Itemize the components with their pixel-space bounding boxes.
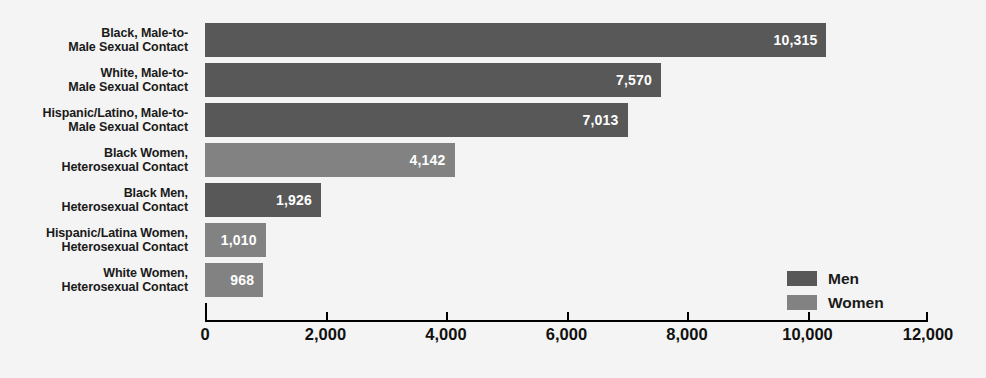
bar-value-label: 7,013 xyxy=(582,112,627,128)
category-label-line1: Black Men, xyxy=(124,186,188,201)
category-axis-labels: Black, Male-to-Male Sexual ContactWhite,… xyxy=(0,23,196,303)
bar: 4,142 xyxy=(205,143,455,177)
bar: 7,570 xyxy=(205,63,661,97)
bar: 7,013 xyxy=(205,103,628,137)
x-axis-tick-label: 12,000 xyxy=(903,325,953,344)
category-label-line2: Male Sexual Contact xyxy=(68,120,188,135)
bar-value-label: 968 xyxy=(230,272,263,288)
legend-label: Women xyxy=(828,294,884,312)
x-axis-tick xyxy=(687,312,689,322)
legend-label: Men xyxy=(828,270,859,288)
bar-row: 10,315 xyxy=(205,23,928,57)
bar-row: 4,142 xyxy=(205,143,928,177)
x-axis-tick xyxy=(446,312,448,322)
bar: 1,926 xyxy=(205,183,321,217)
bar: 968 xyxy=(205,263,263,297)
category-label: Black Women,Heterosexual Contact xyxy=(0,143,196,177)
x-axis-tick xyxy=(326,312,328,322)
legend-item[interactable]: Women xyxy=(787,292,884,313)
x-axis-tick-label: 4,000 xyxy=(425,325,466,344)
bar-row: 7,570 xyxy=(205,63,928,97)
bar-value-label: 7,570 xyxy=(616,72,661,88)
bar-series-container: 10,3157,5707,0134,1421,9261,010968 xyxy=(205,23,928,303)
x-axis-tick xyxy=(567,312,569,322)
category-label-line2: Heterosexual Contact xyxy=(61,240,188,255)
plot-area: 10,3157,5707,0134,1421,9261,010968 xyxy=(205,10,928,310)
bar-value-label: 10,315 xyxy=(773,32,826,48)
legend-item[interactable]: Men xyxy=(787,268,884,289)
category-label-line1: Black Women, xyxy=(104,146,188,161)
bar-value-label: 1,010 xyxy=(221,232,266,248)
category-label: Black, Male-to-Male Sexual Contact xyxy=(0,23,196,57)
bar: 10,315 xyxy=(205,23,826,57)
category-label: White Women,Heterosexual Contact xyxy=(0,263,196,297)
category-label: Black Men,Heterosexual Contact xyxy=(0,183,196,217)
bar-row: 1,010 xyxy=(205,223,928,257)
bar-row: 7,013 xyxy=(205,103,928,137)
category-label-line1: Black, Male-to- xyxy=(101,26,188,41)
x-axis-right-cap xyxy=(926,312,928,322)
category-label: Hispanic/Latino, Male-to-Male Sexual Con… xyxy=(0,103,196,137)
bar-value-label: 4,142 xyxy=(410,152,455,168)
bar-row: 1,926 xyxy=(205,183,928,217)
x-axis-tick-label: 0 xyxy=(200,325,209,344)
bar-chart: Black, Male-to-Male Sexual ContactWhite,… xyxy=(0,0,986,378)
category-label-line1: Hispanic/Latino, Male-to- xyxy=(43,106,188,121)
x-axis-tick-label: 10,000 xyxy=(782,325,832,344)
category-label-line2: Male Sexual Contact xyxy=(68,80,188,95)
category-label-line1: Hispanic/Latina Women, xyxy=(46,226,188,241)
category-label-line2: Male Sexual Contact xyxy=(68,40,188,55)
bar-value-label: 1,926 xyxy=(276,192,321,208)
bar: 1,010 xyxy=(205,223,266,257)
category-label-line2: Heterosexual Contact xyxy=(61,200,188,215)
x-axis-tick-label: 6,000 xyxy=(546,325,587,344)
category-label: White, Male-to-Male Sexual Contact xyxy=(0,63,196,97)
x-axis-tick-label: 8,000 xyxy=(666,325,707,344)
category-label: Hispanic/Latina Women,Heterosexual Conta… xyxy=(0,223,196,257)
chart-legend: MenWomen xyxy=(787,268,884,316)
category-label-line2: Heterosexual Contact xyxy=(61,160,188,175)
category-label-line2: Heterosexual Contact xyxy=(61,280,188,295)
legend-swatch-icon xyxy=(787,271,817,286)
category-label-line1: White Women, xyxy=(103,266,188,281)
x-axis-tick-label: 2,000 xyxy=(305,325,346,344)
legend-swatch-icon xyxy=(787,295,817,310)
category-label-line1: White, Male-to- xyxy=(101,66,188,81)
